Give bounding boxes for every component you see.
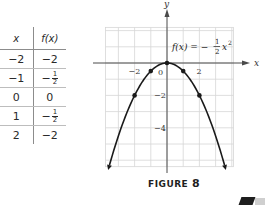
corner-gray-block	[255, 198, 265, 205]
data-point	[149, 69, 154, 74]
x-tick-label: 0	[158, 68, 163, 77]
y-tick-label: −2	[154, 91, 166, 100]
curve-left-arrow-icon	[107, 164, 112, 169]
data-point	[132, 93, 137, 98]
corner-dark-block	[239, 197, 256, 205]
figure-caption: FIGURE 8	[148, 177, 200, 190]
equation-prefix: f(x) = −	[171, 42, 208, 52]
data-point	[197, 93, 202, 98]
caption-label: FIGURE	[148, 179, 188, 189]
x-tick-label: −2	[129, 67, 141, 76]
y-axis-label: y	[163, 0, 170, 9]
equation-exponent: 2	[228, 39, 232, 46]
data-point	[165, 61, 170, 66]
parabola-graph: xy−202−2−4f(x) = −12x2	[0, 0, 267, 205]
equation-numerator: 1	[215, 38, 219, 46]
curve-right-arrow-icon	[222, 164, 227, 169]
page-corner-decoration	[238, 195, 267, 205]
equation-denominator: 2	[215, 48, 219, 56]
equation-variable: x	[222, 42, 227, 52]
x-axis-arrow-icon	[242, 61, 250, 66]
y-tick-label: −4	[154, 124, 166, 133]
data-point	[181, 69, 186, 74]
y-axis-arrow-icon	[165, 9, 170, 17]
x-axis-label: x	[254, 58, 259, 68]
x-tick-label: 2	[196, 67, 201, 76]
caption-number: 8	[192, 177, 200, 190]
